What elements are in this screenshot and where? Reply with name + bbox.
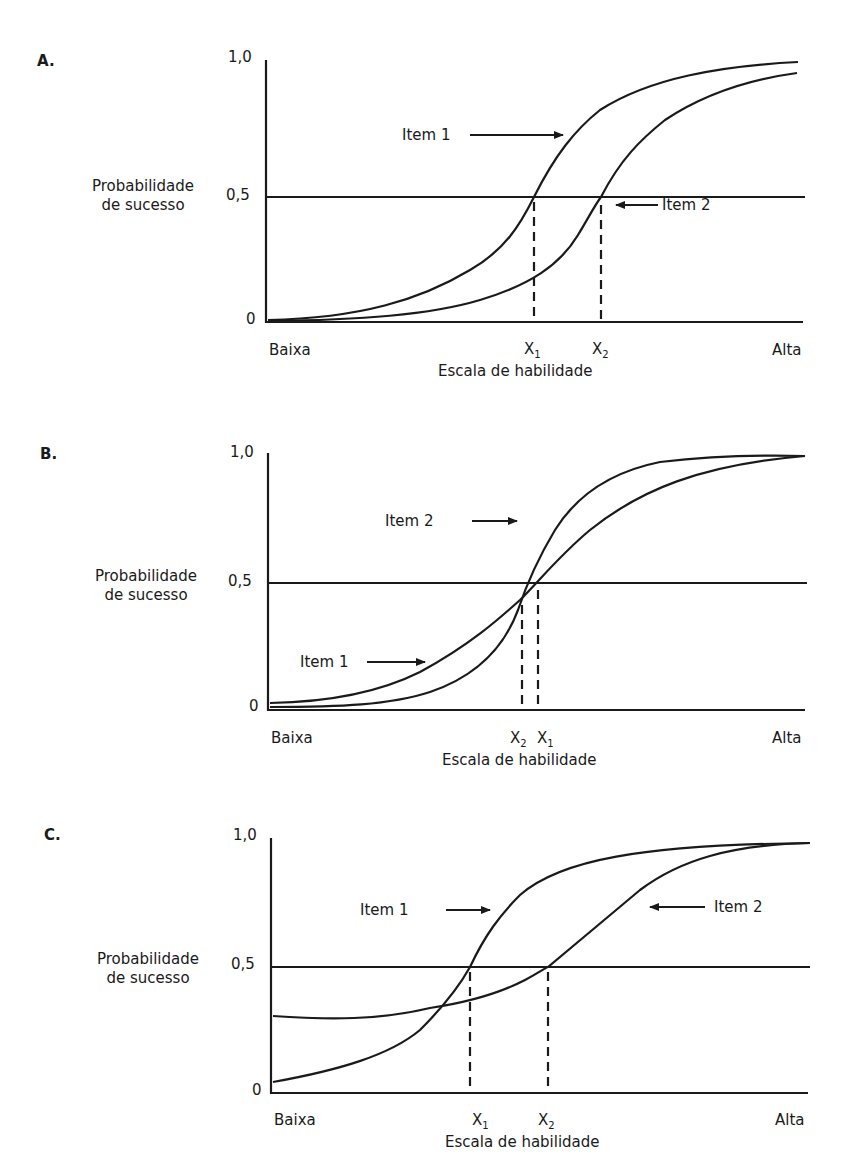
x-low-label: Baixa (274, 1111, 316, 1129)
marker-x2: X2 (592, 340, 609, 360)
x-axis-label: Escala de habilidade (445, 1133, 600, 1151)
y-axis-label-line2: de sucesso (78, 196, 208, 215)
y-axis-label: Probabilidade de sucesso (81, 567, 211, 605)
ytick-1.0: 1,0 (230, 443, 254, 461)
y-axis-label-line1: Probabilidade (83, 950, 213, 969)
x-axis-label: Escala de habilidade (442, 751, 597, 769)
y-axis-label: Probabilidade de sucesso (78, 177, 208, 215)
item2-label: Item 2 (385, 512, 433, 530)
marker-x2: X2 (510, 729, 527, 749)
y-axis-label-line1: Probabilidade (81, 567, 211, 586)
x-high-label: Alta (772, 729, 802, 747)
ytick-0: 0 (246, 310, 256, 328)
x-low-label: Baixa (271, 729, 313, 747)
ytick-0.5: 0,5 (228, 572, 252, 590)
ytick-0.5: 0,5 (226, 186, 250, 204)
ytick-0.5: 0,5 (231, 955, 255, 973)
panel-b-plot (268, 453, 807, 711)
panel-c-plot (271, 838, 810, 1094)
ytick-1.0: 1,0 (233, 826, 257, 844)
item2-curve (273, 843, 810, 1018)
x-high-label: Alta (772, 341, 802, 359)
y-axis-label-line2: de sucesso (81, 586, 211, 605)
x-low-label: Baixa (269, 341, 311, 359)
marker-x1: X1 (524, 340, 541, 360)
marker-x2: X2 (538, 1111, 555, 1131)
panel-c-label: C. (44, 826, 61, 844)
ytick-0: 0 (252, 1081, 262, 1099)
y-axis-label-line1: Probabilidade (78, 177, 208, 196)
y-axis-label: Probabilidade de sucesso (83, 950, 213, 988)
marker-x1: X1 (472, 1111, 489, 1131)
item2-label: Item 2 (714, 898, 762, 916)
marker-x1: X1 (537, 729, 554, 749)
item1-label: Item 1 (360, 901, 408, 919)
x-axis-label: Escala de habilidade (438, 362, 593, 380)
panel-a-label: A. (37, 52, 55, 70)
y-axis-label-line2: de sucesso (83, 969, 213, 988)
item1-label: Item 1 (402, 126, 450, 144)
item2-label: Item 2 (662, 196, 710, 214)
panel-a-plot (266, 60, 805, 323)
ytick-1.0: 1,0 (228, 48, 252, 66)
item1-curve (273, 843, 810, 1082)
panel-b-label: B. (40, 445, 57, 463)
ytick-0: 0 (249, 697, 259, 715)
item1-label: Item 1 (300, 653, 348, 671)
x-high-label: Alta (775, 1111, 805, 1129)
